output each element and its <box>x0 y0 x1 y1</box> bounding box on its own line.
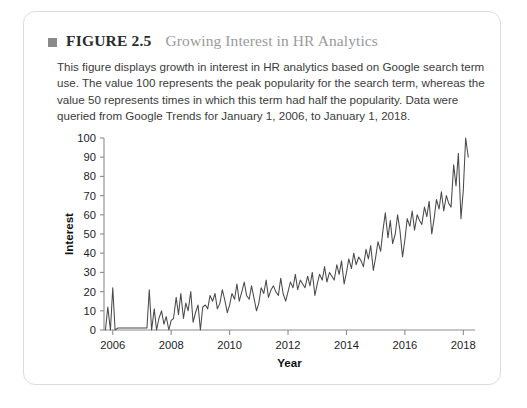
svg-text:90: 90 <box>84 151 96 163</box>
data-line-hr-analytics <box>105 138 468 330</box>
interest-line-chart: 0102030405060708090100 20062008201020122… <box>57 130 481 380</box>
svg-text:60: 60 <box>84 209 96 221</box>
svg-text:0: 0 <box>90 324 96 336</box>
svg-text:2008: 2008 <box>159 339 184 351</box>
svg-text:10: 10 <box>84 305 96 317</box>
svg-text:2014: 2014 <box>334 339 359 351</box>
svg-text:20: 20 <box>84 286 96 298</box>
figure-header: FIGURE 2.5 Growing Interest in HR Analyt… <box>48 32 378 50</box>
svg-text:80: 80 <box>84 170 96 182</box>
figure-card: FIGURE 2.5 Growing Interest in HR Analyt… <box>23 11 501 385</box>
svg-text:2012: 2012 <box>276 339 301 351</box>
y-axis-title: Interest <box>62 213 75 255</box>
svg-text:30: 30 <box>84 266 96 278</box>
svg-text:50: 50 <box>84 228 96 240</box>
x-axis-title: Year <box>277 356 302 369</box>
svg-text:2016: 2016 <box>392 339 417 351</box>
svg-text:70: 70 <box>84 190 96 202</box>
figure-number: FIGURE 2.5 <box>66 32 152 50</box>
square-bullet-icon <box>48 38 57 47</box>
svg-text:2006: 2006 <box>100 339 125 351</box>
svg-text:40: 40 <box>84 247 96 259</box>
svg-text:100: 100 <box>77 132 96 144</box>
x-axis: 2006200820102012201420162018 <box>100 330 475 351</box>
chart-plot-area: 0102030405060708090100 20062008201020122… <box>57 130 481 380</box>
svg-text:2010: 2010 <box>217 339 242 351</box>
figure-title: Growing Interest in HR Analytics <box>166 32 378 50</box>
figure-caption: This figure displays growth in interest … <box>57 59 487 125</box>
svg-text:2018: 2018 <box>451 339 476 351</box>
y-axis: 0102030405060708090100 <box>77 132 104 336</box>
